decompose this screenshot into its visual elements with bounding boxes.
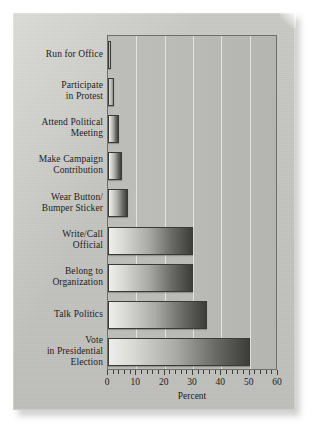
x-tick-label: 0 — [105, 376, 110, 388]
minor-tick — [254, 370, 255, 374]
minor-tick — [130, 370, 131, 374]
minor-tick — [181, 370, 182, 374]
x-tick-label: 40 — [216, 376, 226, 388]
category-axis-labels: Run for OfficeParticipate in ProtestAtte… — [13, 35, 103, 370]
minor-tick — [266, 370, 267, 374]
minor-tick — [118, 370, 119, 374]
bar — [108, 115, 119, 143]
category-label: Talk Politics — [13, 309, 103, 320]
minor-tick — [175, 370, 176, 374]
minor-tick — [215, 370, 216, 374]
minor-tick — [113, 370, 114, 374]
x-tick-label: 20 — [159, 376, 169, 388]
major-tick — [220, 370, 221, 375]
category-label: Vote in Presidential Election — [13, 335, 103, 368]
minor-tick — [158, 370, 159, 374]
x-axis-tick-labels: 0102030405060 — [107, 376, 277, 390]
major-tick — [135, 370, 136, 375]
x-tick-label: 30 — [187, 376, 197, 388]
bar-row — [108, 259, 276, 296]
bar-row — [108, 297, 276, 334]
minor-tick — [243, 370, 244, 374]
major-tick — [107, 370, 108, 375]
x-tick-label: 10 — [131, 376, 141, 388]
plot-area — [107, 35, 277, 370]
x-tick-label: 50 — [244, 376, 254, 388]
bar — [108, 301, 207, 329]
category-label: Belong to Organization — [13, 266, 103, 288]
category-label: Attend Political Meeting — [13, 117, 103, 139]
x-tick-label: 60 — [272, 376, 282, 388]
bar-row — [108, 334, 276, 370]
category-label: Write/Call Official — [13, 229, 103, 251]
bar — [108, 152, 122, 180]
category-label: Participate in Protest — [13, 80, 103, 102]
bar — [108, 41, 111, 69]
minor-tick — [198, 370, 199, 374]
bar-rows — [108, 36, 276, 369]
minor-tick — [124, 370, 125, 374]
major-tick — [277, 370, 278, 375]
bar-row — [108, 36, 276, 73]
bar-row — [108, 73, 276, 110]
bar-chart: Run for OfficeParticipate in ProtestAtte… — [13, 13, 295, 410]
minor-tick — [203, 370, 204, 374]
minor-tick — [271, 370, 272, 374]
x-axis-title: Percent — [107, 390, 277, 402]
category-label: Run for Office — [13, 48, 103, 59]
category-label: Make Campaign Contribution — [13, 154, 103, 176]
minor-tick — [141, 370, 142, 374]
scanned-figure-card: Run for OfficeParticipate in ProtestAtte… — [13, 13, 295, 410]
bar — [108, 264, 193, 292]
major-tick — [249, 370, 250, 375]
bar — [108, 338, 250, 366]
major-tick — [192, 370, 193, 375]
minor-tick — [260, 370, 261, 374]
figure-page: Run for OfficeParticipate in ProtestAtte… — [0, 0, 313, 434]
bar — [108, 78, 114, 106]
minor-tick — [169, 370, 170, 374]
minor-tick — [186, 370, 187, 374]
bar-row — [108, 185, 276, 222]
minor-tick — [147, 370, 148, 374]
bar — [108, 189, 128, 217]
major-tick — [164, 370, 165, 375]
category-label: Wear Button/ Bumper Sticker — [13, 192, 103, 214]
minor-tick — [152, 370, 153, 374]
bar-row — [108, 110, 276, 147]
minor-tick — [209, 370, 210, 374]
minor-tick — [226, 370, 227, 374]
bar-row — [108, 222, 276, 259]
bar-row — [108, 148, 276, 185]
bar — [108, 227, 193, 255]
minor-tick — [232, 370, 233, 374]
minor-tick — [237, 370, 238, 374]
